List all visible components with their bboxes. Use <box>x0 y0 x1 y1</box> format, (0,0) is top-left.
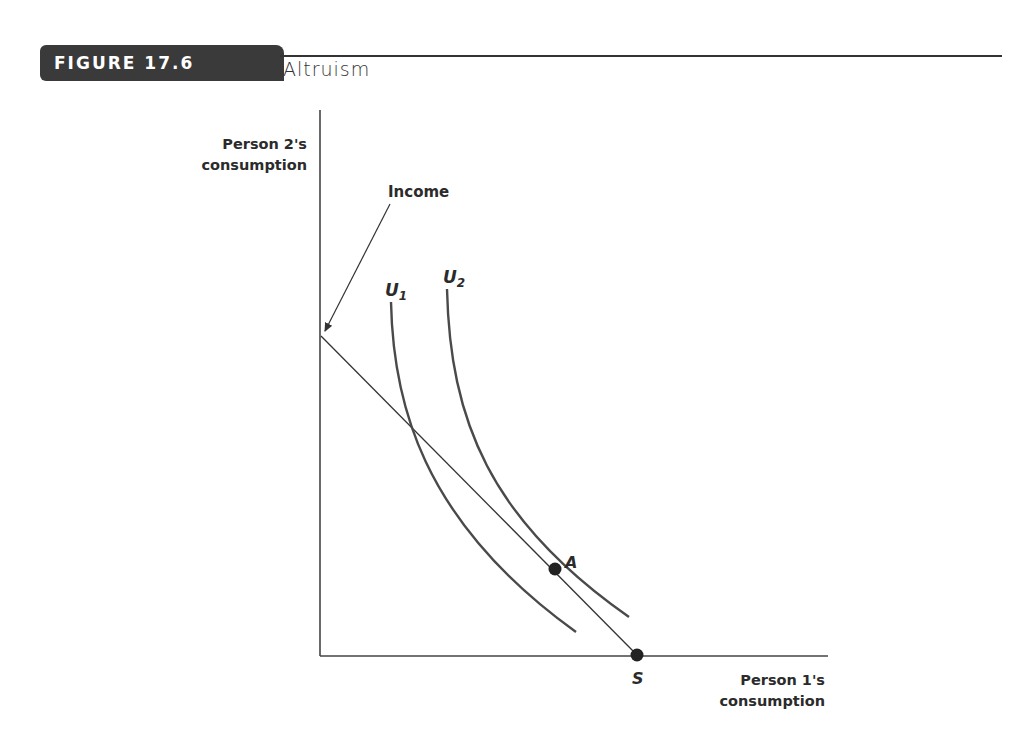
point-s-label: S <box>632 669 644 688</box>
income-arrow <box>325 204 390 331</box>
x-axis-label-line1: Person 1's <box>740 672 825 688</box>
y-axis-label-line1: Person 2's <box>222 136 307 152</box>
y-axis-label-line2: consumption <box>201 157 307 173</box>
u1-label: U1 <box>385 280 407 303</box>
budget-line <box>321 336 637 655</box>
income-label: Income <box>388 183 449 201</box>
altruism-diagram: Person 2's consumption Person 1's consum… <box>0 0 1013 736</box>
indifference-curve-u2 <box>447 289 629 617</box>
point-a-marker <box>549 563 562 576</box>
x-axis-label-line2: consumption <box>719 693 825 709</box>
indifference-curve-u1 <box>391 302 576 632</box>
point-a-label: A <box>563 553 577 572</box>
point-s-marker <box>631 649 644 662</box>
u2-label: U2 <box>443 267 465 290</box>
